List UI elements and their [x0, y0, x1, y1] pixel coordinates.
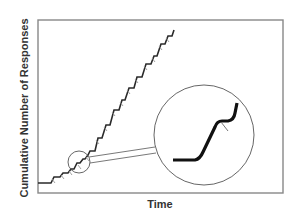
magnified-inset-circle [154, 85, 254, 185]
cumulative-record-figure [0, 0, 295, 220]
x-axis-label: Time [147, 198, 172, 210]
y-axis-label: Cumulative Number of Responses [18, 18, 30, 197]
cumulative-record-line [38, 30, 174, 183]
response-tick-marks [52, 38, 169, 183]
magnify-source-circle [68, 151, 90, 173]
magnify-connector-lines [89, 147, 156, 163]
